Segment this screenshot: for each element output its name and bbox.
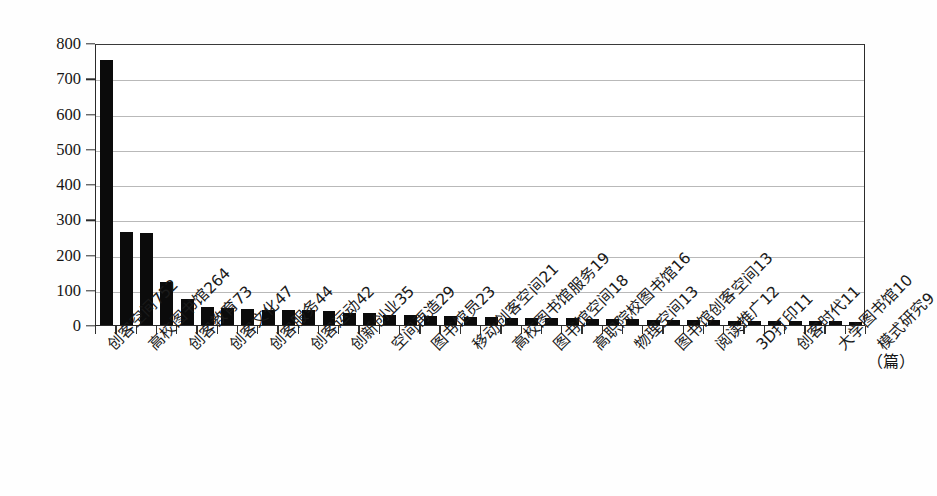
bar <box>545 318 558 325</box>
x-tick <box>136 326 137 334</box>
x-tick <box>804 326 805 334</box>
bar <box>201 307 214 325</box>
bar <box>221 308 234 325</box>
x-tick <box>500 326 501 334</box>
bar <box>687 320 700 325</box>
bar <box>708 320 721 325</box>
x-tick <box>379 326 380 334</box>
x-tick <box>581 326 582 334</box>
x-tick <box>683 326 684 334</box>
bar <box>464 317 477 325</box>
bar <box>829 321 842 325</box>
x-tick <box>277 326 278 334</box>
y-tick-label-100: 100 <box>56 281 81 301</box>
bar <box>120 232 133 325</box>
bar <box>343 313 356 325</box>
y-tick-label-200: 200 <box>56 246 81 266</box>
bar <box>100 60 113 325</box>
y-tick-700 <box>86 79 95 80</box>
x-tick <box>439 326 440 334</box>
x-tick <box>338 326 339 334</box>
x-tick <box>115 326 116 334</box>
y-tick-500 <box>86 149 95 150</box>
y-tick-100 <box>86 290 95 291</box>
x-tick <box>318 326 319 334</box>
x-tick <box>743 326 744 334</box>
chart-plot-area <box>95 44 865 326</box>
bar <box>424 316 437 325</box>
x-tick <box>642 326 643 334</box>
x-tick <box>399 326 400 334</box>
unit-annotation: （篇） <box>867 348 915 372</box>
bar <box>363 313 376 325</box>
bar <box>667 320 680 325</box>
bar <box>728 321 741 325</box>
x-tick <box>703 326 704 334</box>
x-tick <box>602 326 603 334</box>
y-tick-600 <box>86 114 95 115</box>
y-tick-label-0: 0 <box>73 316 81 336</box>
x-tick <box>784 326 785 334</box>
bar <box>748 321 761 325</box>
x-tick <box>358 326 359 334</box>
x-tick <box>622 326 623 334</box>
y-tick-label-400: 400 <box>56 175 81 195</box>
x-tick <box>541 326 542 334</box>
bar <box>282 310 295 325</box>
x-tick <box>460 326 461 334</box>
x-tick <box>845 326 846 334</box>
y-tick-300 <box>86 220 95 221</box>
x-tick <box>662 326 663 334</box>
x-tick <box>257 326 258 334</box>
bar <box>505 318 518 325</box>
bar <box>606 319 619 325</box>
x-tick <box>419 326 420 334</box>
y-tick-label-500: 500 <box>56 140 81 160</box>
bar <box>768 321 781 325</box>
x-tick <box>723 326 724 334</box>
y-tick-label-800: 800 <box>56 34 81 54</box>
x-tick <box>764 326 765 334</box>
y-axis: 0100200300400500600700800 <box>0 44 95 326</box>
x-tick <box>824 326 825 334</box>
bar-series <box>96 45 864 325</box>
x-tick <box>156 326 157 334</box>
x-tick <box>480 326 481 334</box>
y-tick-label-700: 700 <box>56 69 81 89</box>
x-axis-label: 模式研究9 <box>871 286 937 353</box>
bar <box>626 319 639 325</box>
x-axis-ticks <box>95 326 865 335</box>
bar <box>444 316 457 325</box>
bar <box>566 318 579 325</box>
x-tick <box>298 326 299 334</box>
bar <box>323 311 336 325</box>
page-top-cut-text <box>28 0 358 9</box>
x-tick <box>521 326 522 334</box>
x-tick <box>176 326 177 334</box>
bar <box>241 309 254 325</box>
y-tick-0 <box>86 325 95 326</box>
bar <box>809 321 822 325</box>
x-tick <box>196 326 197 334</box>
bar <box>849 322 862 325</box>
bar <box>525 318 538 325</box>
bar <box>140 233 153 325</box>
bar <box>586 319 599 325</box>
x-tick <box>217 326 218 334</box>
y-tick-label-600: 600 <box>56 105 81 125</box>
y-tick-label-300: 300 <box>56 210 81 230</box>
bar <box>647 320 660 325</box>
bar <box>160 282 173 325</box>
x-tick <box>561 326 562 334</box>
y-tick-400 <box>86 184 95 185</box>
bar <box>404 315 417 325</box>
x-tick <box>865 326 866 334</box>
x-tick <box>237 326 238 334</box>
bar <box>383 315 396 325</box>
y-tick-200 <box>86 255 95 256</box>
bar <box>262 310 275 326</box>
y-tick-800 <box>86 43 95 44</box>
bar <box>302 310 315 325</box>
bar <box>485 317 498 325</box>
scanned-page: 0100200300400500600700800 创客空间752高校图书馆26… <box>0 0 937 496</box>
